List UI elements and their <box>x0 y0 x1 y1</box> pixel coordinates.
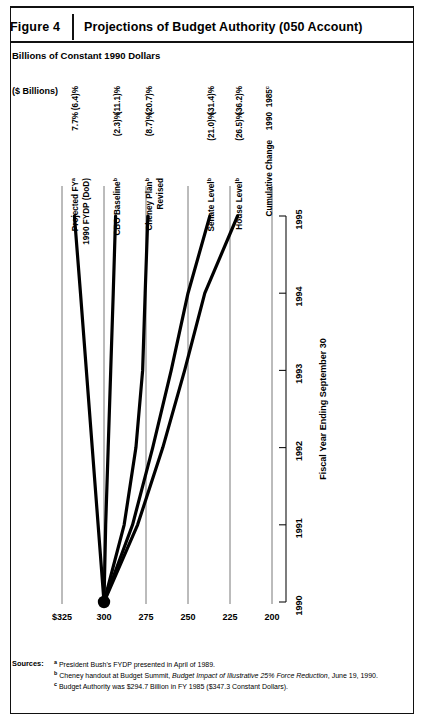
source-note: b Cheney handout at Budget Summit, Budge… <box>54 670 412 681</box>
table-header-title: Cumulative Change <box>265 140 274 217</box>
sources-notes-list: a President Bush's FYDP presented in Apr… <box>54 659 412 691</box>
budget-authority-line-chart: $325300275250225200199019911992199319941… <box>10 66 414 654</box>
footnote-marker: b <box>54 670 57 676</box>
series-label-footnote-marker: a <box>70 177 76 181</box>
title-underline-rule <box>10 41 414 43</box>
chart-plot-area: ($ Billions) $32530027525022520019901991… <box>10 66 414 654</box>
bottom-rule <box>10 713 414 714</box>
series-label-footnote-marker: b <box>206 177 212 181</box>
series-end-label: Cheney Planb <box>144 177 154 230</box>
series-end-label: CBO Baselineb <box>112 177 122 235</box>
sources-label: Sources: <box>12 659 54 669</box>
series-end-label: Senate Levelb <box>206 177 216 231</box>
table-cell-change-1985: (31.4)% <box>207 85 216 114</box>
figure-title-bar: Figure 4 Projections of Budget Authority… <box>10 14 414 40</box>
x-axis-tick-label: 1993 <box>294 364 304 384</box>
table-cell-change-1990: (26.5)% <box>235 111 244 140</box>
series-label-footnote-marker: b <box>234 177 240 181</box>
series-end-label-line2: 1990 FYDP (DoD) <box>82 178 91 245</box>
series-label-footnote-marker: b <box>112 177 118 181</box>
table-cell-change-1990: (21.0)% <box>207 111 216 140</box>
table-header-col-1990: 1990 <box>265 112 274 131</box>
footnote-marker: a <box>54 659 57 665</box>
top-rule <box>10 6 414 8</box>
x-axis-tick-label: 1990 <box>294 595 304 615</box>
series-end-label-line2: Revised <box>156 178 165 209</box>
x-axis-title: Fiscal Year Ending September 30 <box>318 338 328 479</box>
footnote-marker: c <box>54 681 57 687</box>
x-axis-tick-label: 1992 <box>294 441 304 461</box>
series-end-label: House Levelb <box>234 177 244 229</box>
x-axis-tick-label: 1994 <box>294 287 304 307</box>
series-line <box>74 216 104 602</box>
series-end-label: Projected FYa <box>70 177 80 231</box>
source-note: c Budget Authority was $294.7 Billion in… <box>54 681 412 692</box>
origin-marker <box>98 596 110 608</box>
table-cell-change-1985: (20.7)% <box>145 85 154 114</box>
series-line <box>104 216 116 602</box>
source-note: a President Bush's FYDP presented in Apr… <box>54 659 412 670</box>
y-axis-tick-label: 250 <box>180 612 195 622</box>
figure-subtitle: Billions of Constant 1990 Dollars <box>12 50 160 61</box>
x-axis-tick-label: 1995 <box>294 209 304 229</box>
series-label-footnote-marker: b <box>144 177 150 181</box>
sources-block: Sources: a President Bush's FYDP present… <box>12 659 412 691</box>
table-header-col-1985: 1985c <box>264 86 274 107</box>
y-axis-tick-label: $325 <box>52 612 72 622</box>
table-cell-change-1985: (36.2)% <box>235 85 244 114</box>
table-cell-change-1985: (11.1)% <box>113 85 122 114</box>
source-note-italic-title: Budget Impact of Illustrative 25% Force … <box>172 672 328 679</box>
figure-title: Projections of Budget Authority (050 Acc… <box>84 20 363 34</box>
x-axis-tick-label: 1991 <box>294 518 304 538</box>
y-axis-tick-label: 225 <box>222 612 237 622</box>
table-cell-change-1985: (6.4)% <box>71 85 80 110</box>
figure-number: Figure 4 <box>10 20 72 34</box>
y-axis-tick-label: 300 <box>96 612 111 622</box>
table-cell-change-1990: 7.7% <box>71 111 80 130</box>
table-header-footnote-marker: c <box>264 86 270 89</box>
y-axis-tick-label: 200 <box>264 612 279 622</box>
y-axis-tick-label: 275 <box>138 612 153 622</box>
title-divider <box>72 14 74 40</box>
figure-page: Figure 4 Projections of Budget Authority… <box>0 0 424 720</box>
